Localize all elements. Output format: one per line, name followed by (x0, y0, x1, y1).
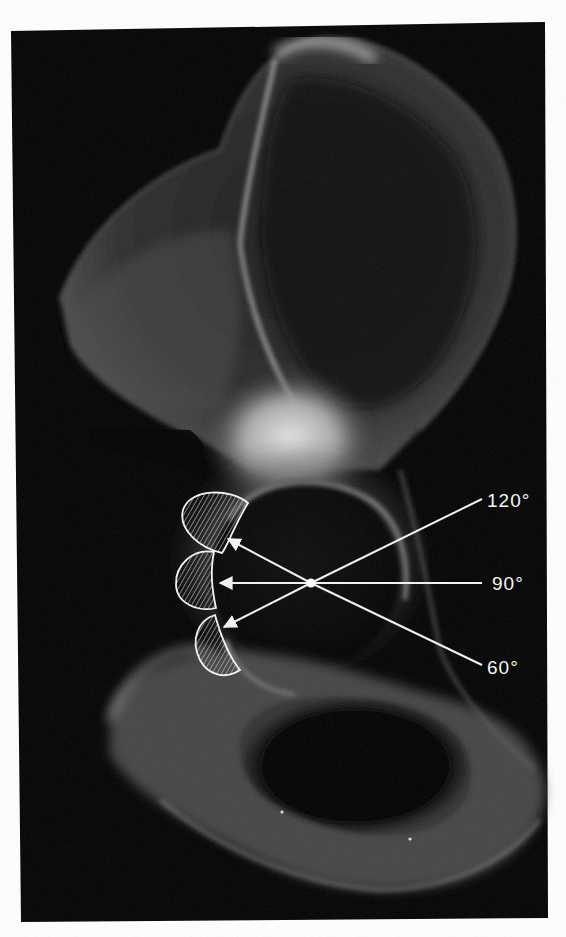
angle-label-60: 60° (487, 657, 519, 678)
hip-bone-radiograph-figure: 120° 90° 60° (0, 0, 566, 937)
film-grain (11, 22, 548, 922)
center-of-rotation-point (307, 579, 316, 588)
angle-label-90: 90° (492, 573, 524, 594)
angle-label-120: 120° (487, 490, 530, 511)
